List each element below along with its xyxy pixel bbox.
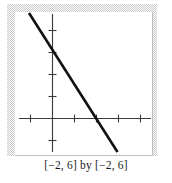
- coordinate-plot: [0, 0, 172, 183]
- viewing-window-caption: [−2, 6] by [−2, 6]: [0, 159, 172, 171]
- plotted-line: [29, 13, 118, 152]
- graph-figure: [−2, 6] by [−2, 6]: [0, 0, 172, 183]
